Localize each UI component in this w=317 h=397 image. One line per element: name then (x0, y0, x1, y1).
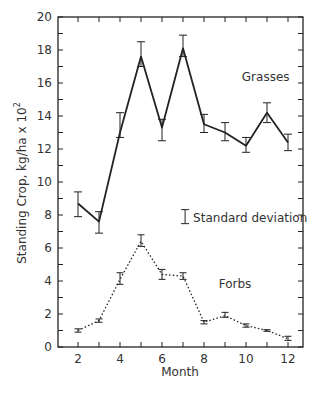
x-tick-label: 6 (158, 352, 166, 366)
chart-figure: 02468101214161820 24681012 GrassesForbsS… (0, 0, 317, 397)
error-bar (284, 134, 292, 151)
y-tick-label: 12 (37, 142, 52, 156)
x-tick-label: 8 (200, 352, 208, 366)
legend-label: Standard deviation (193, 211, 307, 225)
error-bar (264, 330, 271, 332)
y-tick-label: 2 (44, 307, 52, 321)
y-tick-label: 16 (37, 76, 52, 90)
y-tick-label: 6 (44, 241, 52, 255)
y-axis-title-exponent: 2 (13, 102, 22, 107)
error-bar (285, 336, 292, 340)
y-tick-label: 20 (37, 10, 52, 24)
x-tick-label: 4 (116, 352, 124, 366)
x-tick-label: 10 (238, 352, 253, 366)
y-tick-label: 10 (37, 175, 52, 189)
error-bar (158, 119, 166, 140)
x-tick-label: 2 (74, 352, 82, 366)
error-bar (137, 42, 145, 67)
x-axis-title: Month (161, 365, 199, 379)
error-bar (74, 192, 82, 217)
error-bar (179, 35, 187, 56)
y-tick-label: 14 (37, 109, 52, 123)
error-bar (95, 212, 103, 233)
error-bar (75, 329, 82, 332)
error-bar (96, 319, 103, 322)
x-tick-label: 12 (280, 352, 295, 366)
y-axis-ticks: 02468101214161820 (37, 10, 303, 354)
series-grasses (74, 35, 292, 233)
standard-deviation-legend: Standard deviation (181, 210, 307, 225)
error-bar (138, 235, 145, 247)
series-label-forbs: Forbs (219, 277, 252, 291)
error-bar (263, 103, 271, 123)
y-tick-label: 8 (44, 208, 52, 222)
y-tick-label: 4 (44, 274, 52, 288)
plot-axes (58, 17, 303, 347)
y-axis-title-text: Standing Crop, kg/ha x 10 (15, 107, 29, 263)
x-axis-ticks: 24681012 (74, 17, 295, 366)
series-forbs (75, 235, 292, 341)
error-bar (159, 269, 166, 279)
error-bar (201, 321, 208, 324)
y-tick-label: 0 (44, 340, 52, 354)
y-tick-label: 18 (37, 43, 52, 57)
series-label-grasses: Grasses (242, 70, 290, 84)
forbs-line (78, 241, 288, 338)
plot-frame (58, 17, 303, 347)
y-axis-title: Standing Crop, kg/ha x 102 (13, 102, 29, 264)
series-labels: GrassesForbsStandard deviation (181, 70, 307, 290)
